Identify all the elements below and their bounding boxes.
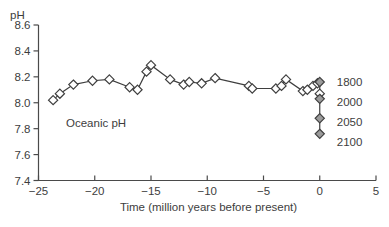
x-tick-label: −15 bbox=[141, 185, 161, 197]
projection-point-diamond bbox=[315, 114, 324, 123]
oceanic-ph-chart: 7.47.67.88.08.28.48.6−25−20−15−10−505180… bbox=[0, 0, 389, 227]
y-tick-label: 7.8 bbox=[15, 123, 31, 135]
x-tick-label: −20 bbox=[85, 185, 105, 197]
y-tick-label: 8.4 bbox=[15, 45, 32, 57]
chart-canvas: 7.47.67.88.08.28.48.6−25−20−15−10−505180… bbox=[0, 0, 389, 227]
data-point-open-diamond bbox=[166, 75, 175, 84]
data-point-open-diamond bbox=[197, 79, 206, 88]
y-axis-title: pH bbox=[10, 9, 25, 22]
x-tick-label: 0 bbox=[317, 185, 323, 197]
x-axis-title: Time (million years before present) bbox=[0, 201, 389, 214]
projection-point-diamond bbox=[315, 129, 324, 138]
x-tick-label: −10 bbox=[197, 185, 217, 197]
data-point-open-diamond bbox=[69, 80, 78, 89]
y-tick-label: 8.0 bbox=[15, 97, 31, 109]
x-tick-label: −25 bbox=[29, 185, 49, 197]
y-tick-label: 7.6 bbox=[15, 149, 31, 161]
x-tick-label: −5 bbox=[257, 185, 270, 197]
data-point-open-diamond bbox=[88, 76, 97, 85]
year-label: 2000 bbox=[337, 96, 363, 108]
data-point-open-diamond bbox=[105, 75, 114, 84]
series-annotation: Oceanic pH bbox=[66, 117, 126, 130]
data-point-open-diamond bbox=[211, 74, 220, 83]
x-tick-label: 5 bbox=[373, 185, 379, 197]
year-label: 2050 bbox=[337, 116, 363, 128]
axis-lines bbox=[39, 25, 377, 181]
y-tick-label: 8.2 bbox=[15, 71, 31, 83]
year-label: 2100 bbox=[337, 136, 363, 148]
year-label: 1800 bbox=[337, 76, 363, 88]
